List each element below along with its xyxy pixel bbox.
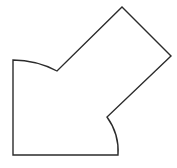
geometric-figure-canvas (0, 0, 177, 168)
